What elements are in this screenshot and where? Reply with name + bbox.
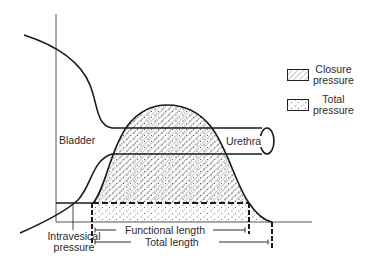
legend-closure-line2: pressure xyxy=(313,75,354,86)
bladder-label: Bladder xyxy=(59,135,95,146)
urethra-tube-end xyxy=(260,128,274,154)
legend-closure-pressure: Closure pressure xyxy=(287,64,354,86)
hatch-swatch-icon xyxy=(287,69,309,81)
urethral-pressure-diagram xyxy=(0,0,368,262)
stipple-swatch-icon xyxy=(287,99,309,111)
urethra-label: Urethra xyxy=(225,136,262,147)
legend-total-line2: pressure xyxy=(313,105,354,116)
intravesical-pressure-label: Intravesical pressure xyxy=(34,231,114,253)
total-length-label: Total length xyxy=(145,237,199,248)
intravesical-label-line2: pressure xyxy=(34,242,114,253)
functional-length-label: Functional length xyxy=(125,225,205,236)
legend-total-pressure: Total pressure xyxy=(287,94,354,116)
